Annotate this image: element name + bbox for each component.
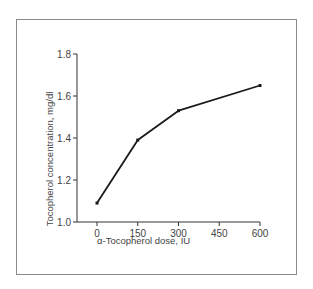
y-tick-label: 1.4 (57, 133, 71, 144)
y-axis-title: Tocopherol concentration, mg/dl (44, 92, 55, 227)
x-tick-label: 600 (252, 228, 269, 239)
data-point (259, 84, 262, 87)
x-tick-label: 450 (211, 228, 228, 239)
y-tick-label: 1.2 (57, 175, 71, 186)
x-axis-title: α-Tocopherol dose, IU (97, 235, 190, 246)
line-chart: 1.01.21.41.61.80150300450600 α-Tocophero… (0, 0, 313, 289)
data-point (136, 139, 139, 142)
plot-area (96, 84, 262, 205)
data-point (177, 109, 180, 112)
data-line (97, 86, 260, 204)
data-point (96, 202, 99, 205)
y-tick-label: 1.6 (57, 91, 71, 102)
y-tick-label: 1.8 (57, 49, 71, 60)
axes: 1.01.21.41.61.80150300450600 (57, 49, 269, 240)
y-tick-label: 1.0 (57, 217, 71, 228)
